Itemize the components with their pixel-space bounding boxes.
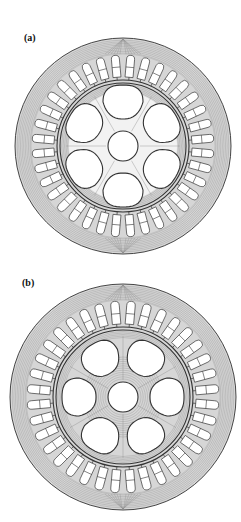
motor-flux-plot-b <box>0 0 241 522</box>
panel-label-b: (b) <box>22 277 34 288</box>
slot <box>195 385 218 395</box>
slot <box>195 399 218 409</box>
slot <box>27 385 50 395</box>
slot <box>27 399 50 409</box>
slot <box>125 301 135 324</box>
slot <box>111 469 121 492</box>
rotor-hole <box>62 378 96 416</box>
rotor-hole <box>150 378 184 416</box>
slot <box>111 301 121 324</box>
panel-b: (b) <box>0 0 241 522</box>
motor-cross-section <box>10 284 236 510</box>
slot <box>125 469 135 492</box>
shaft-hole <box>108 382 138 412</box>
